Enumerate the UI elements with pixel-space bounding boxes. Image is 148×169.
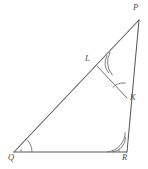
angle-arc-k (113, 83, 126, 88)
segment-pr (127, 20, 139, 152)
geometry-figure: P Q R K L (0, 0, 148, 169)
segment-qp (14, 20, 139, 152)
geometry-canvas (0, 0, 148, 169)
angle-arc-r-outer (107, 132, 125, 152)
vertex-label-q: Q (8, 153, 14, 162)
vertex-label-p: P (133, 3, 138, 12)
vertex-label-l: L (85, 54, 90, 63)
vertex-label-r: R (122, 153, 127, 162)
segment-lk (97, 66, 127, 98)
vertex-label-k: K (130, 93, 136, 102)
angle-arc-q (27, 139, 32, 152)
